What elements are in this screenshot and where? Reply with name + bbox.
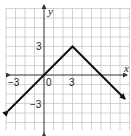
x-axis-label: x (123, 62, 129, 74)
tick-label-y-pos3: 3 (36, 41, 42, 52)
tick-label-y-neg3: −3 (30, 99, 42, 110)
coordinate-graph: y x −3 0 3 3 −3 (0, 0, 131, 136)
y-axis-label: y (47, 5, 53, 17)
tick-label-origin: 0 (46, 77, 52, 88)
tick-label-x-neg3: −3 (8, 77, 20, 88)
grid (6, 8, 130, 130)
tick-label-x-pos3: 3 (69, 77, 75, 88)
